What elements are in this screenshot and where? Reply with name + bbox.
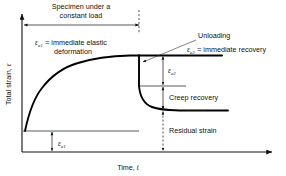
elastic-deformation-annotation: εe1= immediate elastic deformation bbox=[35, 38, 107, 56]
eps-e1-marker-label: εe1 bbox=[58, 139, 66, 149]
constant-load-title-line2: constant load bbox=[60, 11, 103, 20]
svg-text:εe2= immediate recovery: εe2= immediate recovery bbox=[187, 45, 266, 55]
creep-curve-figure: Specimen under a constant load εe1= imme… bbox=[0, 0, 286, 176]
eps-e1-subscript: e1 bbox=[38, 43, 43, 48]
eps-e2-subscript: e2 bbox=[190, 50, 195, 55]
residual-strain-label: Residual strain bbox=[169, 126, 217, 135]
eps-e2-marker-label: εe2 bbox=[168, 66, 176, 76]
recovery-equation: = immediate recovery bbox=[197, 45, 266, 54]
figure-container: Specimen under a constant load εe1= imme… bbox=[0, 0, 286, 176]
elastic-def-equation: = immediate elastic bbox=[45, 38, 107, 47]
recovery-annotation: εe2= immediate recovery bbox=[187, 45, 266, 55]
constant-load-title-line1: Specimen under a bbox=[52, 2, 110, 11]
unloading-label: Unloading bbox=[198, 31, 230, 40]
creep-recovery-label: Creep recovery bbox=[169, 93, 219, 102]
elastic-def-line2: deformation bbox=[54, 47, 92, 56]
x-axis-label: Time, t bbox=[117, 163, 140, 172]
y-axis-label: Total strain, ε bbox=[4, 63, 13, 105]
creep-loading-curve bbox=[25, 56, 139, 132]
